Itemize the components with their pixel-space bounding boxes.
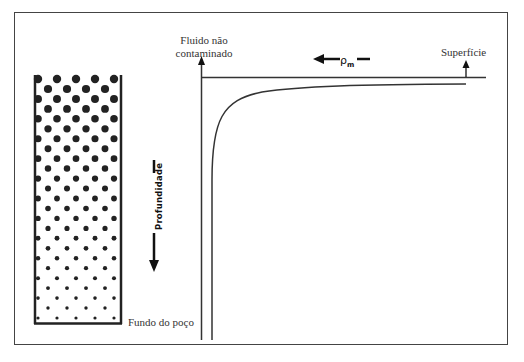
fluid-dot xyxy=(93,316,96,319)
fluid-dot xyxy=(64,145,71,152)
fluid-dot xyxy=(73,155,80,162)
fluid-dot xyxy=(65,286,69,290)
fluid-dot xyxy=(55,236,60,241)
fluid-dot xyxy=(54,155,61,162)
fluid-dot xyxy=(103,266,107,270)
fluid-dot xyxy=(45,185,51,191)
fluid-dot xyxy=(65,306,68,309)
fluid-dot xyxy=(73,216,78,221)
fluid-dot xyxy=(84,246,89,251)
fluid-dot xyxy=(102,185,108,191)
fluid-dot xyxy=(55,296,59,300)
fluid-dot xyxy=(63,85,71,93)
fluid-dot xyxy=(74,236,79,241)
depth-axis-label: Profundidade xyxy=(154,163,164,230)
fluid-dot xyxy=(54,175,60,181)
fluid-dot xyxy=(112,236,117,241)
fluid-dot xyxy=(72,75,80,83)
surface-label: Superfície xyxy=(441,46,486,59)
fluid-dot xyxy=(74,256,79,261)
fluid-dot xyxy=(91,95,99,103)
fluid-dot xyxy=(84,286,88,290)
label-line-2: contaminado xyxy=(173,47,235,60)
fluid-dot xyxy=(92,175,98,181)
fluid-dot xyxy=(93,256,98,261)
fluid-dot xyxy=(53,95,61,103)
fluid-dot xyxy=(46,266,50,270)
vertical-axis xyxy=(198,56,205,340)
fluid-dot xyxy=(83,226,88,231)
fluid-dot xyxy=(112,256,117,261)
fluid-dot xyxy=(92,196,98,202)
fluid-dot xyxy=(101,125,108,132)
fluid-dot xyxy=(103,286,107,290)
fluid-dot xyxy=(102,206,108,212)
fluid-dot xyxy=(91,135,98,142)
arrow-left-icon xyxy=(313,54,324,64)
well-column xyxy=(34,75,122,324)
fluid-dot xyxy=(55,276,59,280)
fluid-dot xyxy=(54,216,59,221)
fluid-dot xyxy=(64,185,70,191)
fluid-dot xyxy=(64,165,70,171)
fluid-dot xyxy=(36,316,39,319)
fluid-dots xyxy=(34,75,118,320)
fluid-dot xyxy=(110,135,117,142)
fluid-dot xyxy=(36,236,41,241)
fluid-dot xyxy=(110,95,118,103)
fluid-dot xyxy=(54,196,60,202)
fluid-dot xyxy=(63,105,71,113)
fluid-dot xyxy=(53,75,61,83)
fluid-dot xyxy=(110,75,118,83)
fluid-dot xyxy=(72,95,80,103)
fluid-dot xyxy=(103,246,108,251)
fluid-dot xyxy=(44,85,52,93)
well-bottom-label: Fundo do poço xyxy=(128,316,194,329)
fluid-dot xyxy=(92,216,97,221)
fluid-dot xyxy=(92,155,99,162)
fluid-dot xyxy=(83,145,90,152)
density-curve xyxy=(212,84,466,340)
arrow-up-icon xyxy=(463,60,470,68)
fluid-dot xyxy=(101,85,109,93)
fluid-dot xyxy=(82,125,89,132)
fluid-dot xyxy=(102,145,109,152)
label-line-1: Fluido não xyxy=(173,34,235,47)
fluid-dot xyxy=(111,216,116,221)
fluid-dot xyxy=(83,206,89,212)
fluid-dot xyxy=(63,125,70,132)
fluid-dot xyxy=(101,105,109,113)
fluid-dot xyxy=(84,266,88,270)
fluid-dot xyxy=(110,115,118,123)
fluid-dot xyxy=(44,125,51,132)
fluid-dot xyxy=(102,226,107,231)
rho-symbol: ρ xyxy=(340,54,347,67)
fluid-dot xyxy=(83,185,89,191)
fluid-dot xyxy=(64,226,69,231)
fluid-dot xyxy=(65,246,70,251)
fluid-dot xyxy=(72,115,80,123)
fluid-dot xyxy=(64,206,70,212)
density-symbol: ρm xyxy=(340,54,354,69)
fluid-dot xyxy=(111,155,118,162)
fluid-dot xyxy=(112,276,116,280)
fluid-dot xyxy=(82,105,90,113)
fluid-dot xyxy=(93,296,97,300)
fluid-dot xyxy=(44,105,52,113)
surface-marker xyxy=(463,60,470,77)
fluid-dot xyxy=(112,316,115,319)
arrow-down-icon xyxy=(149,260,159,272)
fluid-dot xyxy=(36,256,41,261)
fluid-dot xyxy=(46,306,49,309)
fluid-dot xyxy=(73,196,79,202)
fluid-dot xyxy=(91,75,99,83)
fluid-dot xyxy=(53,115,61,123)
fluid-dot xyxy=(53,135,60,142)
fluid-dot xyxy=(83,165,89,171)
fluid-dot xyxy=(45,226,50,231)
fluid-dot xyxy=(65,266,69,270)
rho-subscript: m xyxy=(347,61,354,69)
fluid-dot xyxy=(45,165,51,171)
fluid-dot xyxy=(55,256,60,261)
fluid-dot xyxy=(36,296,40,300)
